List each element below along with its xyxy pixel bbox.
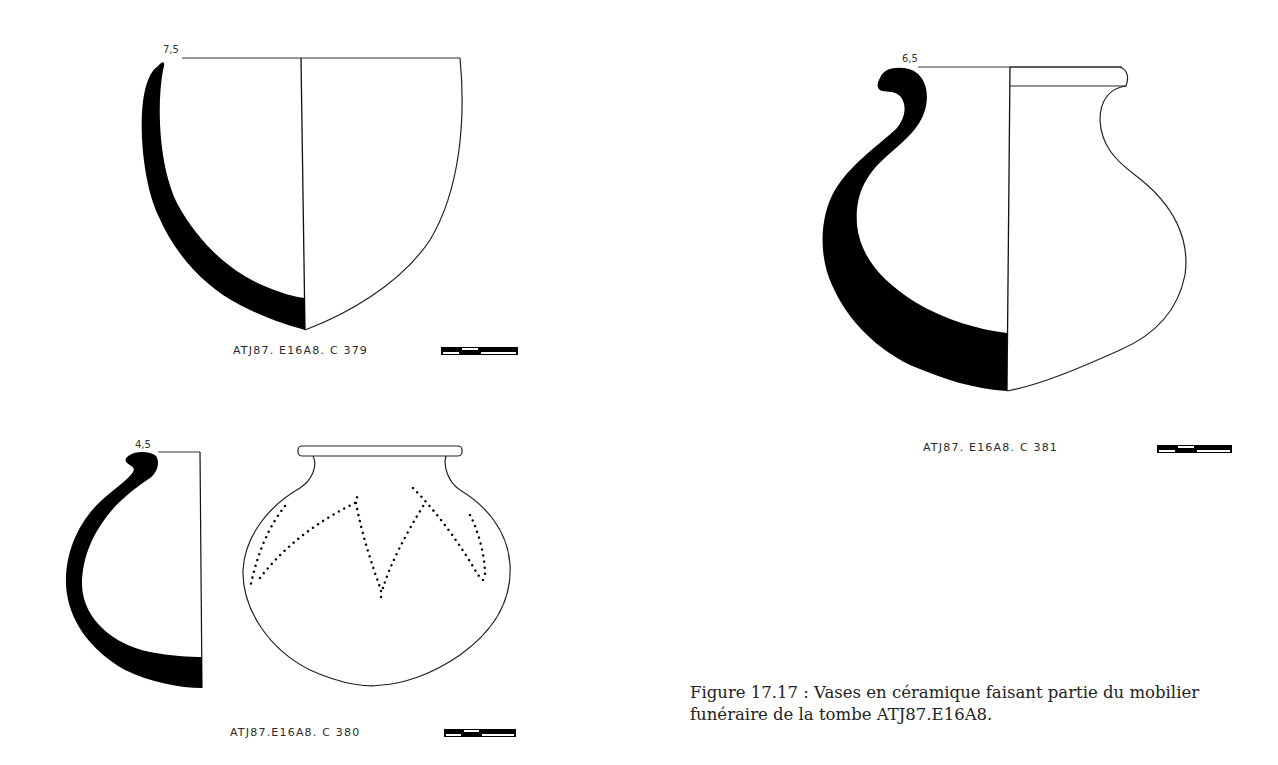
vessel-c380-section	[66, 452, 202, 688]
vessel-c379-drawing	[142, 58, 462, 330]
vessel-c381-dimension: 6,5	[902, 53, 918, 64]
vessel-c380-exterior	[243, 446, 510, 686]
vessel-c380-dimension: 4,5	[135, 439, 151, 450]
vessel-c380-label: ATJ87.E16A8. C 380	[230, 726, 360, 739]
scale-bar-icon	[444, 729, 516, 737]
pottery-drawings	[0, 0, 1278, 765]
scale-bar-icon	[1157, 445, 1232, 453]
figure-caption: Figure 17.17 : Vases en céramique faisan…	[690, 682, 1278, 726]
vessel-c379-dimension: 7,5	[163, 44, 179, 55]
figure-caption-line-2: funéraire de la tombe ATJ87.E16A8.	[690, 704, 1278, 726]
scale-bar-icon	[441, 347, 518, 355]
vessel-c381-drawing	[823, 67, 1186, 391]
vessel-c379-label: ATJ87. E16A8. C 379	[233, 344, 368, 357]
figure-caption-line-1: Figure 17.17 : Vases en céramique faisan…	[690, 682, 1278, 704]
vessel-c381-label: ATJ87. E16A8. C 381	[923, 441, 1058, 454]
pottery-figure: 7,5 6,5 4,5 ATJ87. E16A8. C 379 ATJ87. E…	[0, 0, 1278, 765]
